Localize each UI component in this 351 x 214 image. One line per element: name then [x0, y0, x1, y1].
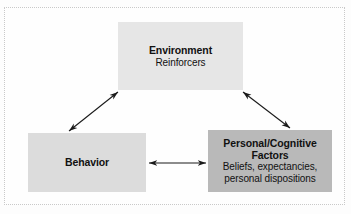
- diagram-canvas: Environment Reinforcers Behavior Persona…: [0, 0, 351, 214]
- node-environment-subtitle: Reinforcers: [155, 57, 205, 69]
- node-personal-title-line2: Factors: [251, 149, 288, 161]
- node-behavior[interactable]: Behavior: [28, 133, 146, 192]
- node-personal-title-line1: Personal/Cognitive: [223, 137, 316, 149]
- node-environment[interactable]: Environment Reinforcers: [118, 22, 243, 90]
- node-personal[interactable]: Personal/Cognitive Factors Beliefs, expe…: [208, 130, 332, 192]
- node-environment-title: Environment: [149, 44, 212, 56]
- node-personal-subtitle-line2: personal dispositions: [224, 173, 315, 185]
- node-personal-subtitle-line1: Beliefs, expectancies,: [223, 161, 318, 173]
- node-behavior-title: Behavior: [65, 156, 109, 168]
